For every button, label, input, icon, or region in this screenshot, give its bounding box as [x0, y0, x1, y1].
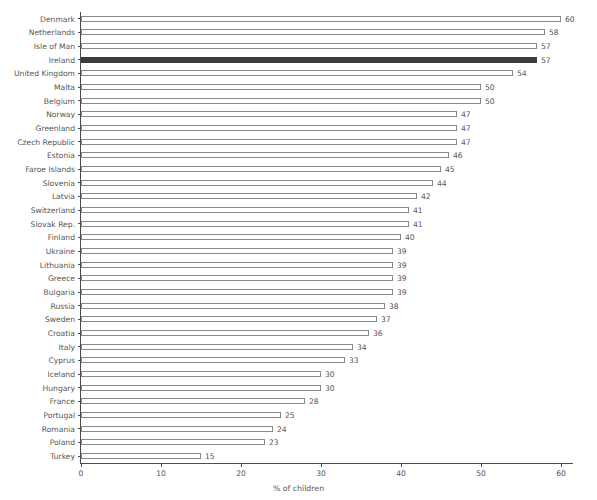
bar	[81, 275, 393, 281]
bar-row: Greenland47	[81, 121, 561, 134]
bar-row: Malta50	[81, 80, 561, 93]
bar-row: Switzerland41	[81, 203, 561, 216]
category-label: Malta	[54, 83, 75, 92]
bar-value-label: 39	[397, 288, 407, 297]
bar-row: Ireland57	[81, 53, 561, 66]
bar	[81, 70, 513, 76]
x-axis-tick-label: 10	[156, 469, 166, 478]
x-axis-tick	[161, 463, 162, 467]
category-label: Norway	[46, 110, 75, 119]
x-axis-tick-label: 60	[556, 469, 566, 478]
bar-value-label: 15	[205, 452, 215, 461]
bar-row: United Kingdom54	[81, 67, 561, 80]
x-axis-tick-label: 40	[396, 469, 406, 478]
category-label: Greece	[48, 274, 75, 283]
x-axis-tick	[241, 463, 242, 467]
category-label: Greenland	[36, 124, 75, 133]
bar-value-label: 39	[397, 260, 407, 269]
bar-value-label: 24	[277, 424, 287, 433]
bar-value-label: 47	[461, 110, 471, 119]
category-label: Isle of Man	[34, 42, 75, 51]
bar-value-label: 45	[445, 165, 455, 174]
bar-row: Portugal25	[81, 408, 561, 421]
x-axis-tick-label: 0	[79, 469, 84, 478]
bar-value-label: 60	[565, 14, 575, 23]
bar-value-label: 30	[325, 383, 335, 392]
bar-row: Romania24	[81, 422, 561, 435]
bar-row: Norway47	[81, 108, 561, 121]
bar-row: Italy34	[81, 340, 561, 353]
x-axis-tick	[561, 463, 562, 467]
bar	[81, 207, 409, 213]
bar-value-label: 44	[437, 178, 447, 187]
bar	[81, 412, 281, 418]
bar-row: Greece39	[81, 272, 561, 285]
bar-row: Ukraine39	[81, 244, 561, 257]
bar	[81, 29, 545, 35]
category-label: Ukraine	[46, 247, 75, 256]
bar-value-label: 30	[325, 370, 335, 379]
bar-row: Croatia36	[81, 326, 561, 339]
bar	[81, 398, 305, 404]
bar-row: Cyprus33	[81, 354, 561, 367]
category-label: France	[50, 397, 75, 406]
bar	[81, 16, 561, 22]
bar-value-label: 39	[397, 274, 407, 283]
bar	[81, 248, 393, 254]
x-axis-tick	[81, 463, 82, 467]
bar	[81, 330, 369, 336]
category-label: Denmark	[40, 14, 75, 23]
bar-value-label: 36	[373, 329, 383, 338]
bar-value-label: 50	[485, 96, 495, 105]
category-label: Estonia	[47, 151, 75, 160]
category-label: Belgium	[44, 96, 75, 105]
bar-row: Faroe Islands45	[81, 162, 561, 175]
category-label: Latvia	[52, 192, 75, 201]
x-axis-tick-label: 20	[236, 469, 246, 478]
bar-row: Isle of Man57	[81, 39, 561, 52]
category-label: Cyprus	[48, 356, 75, 365]
bar-value-label: 28	[309, 397, 319, 406]
bar-value-label: 46	[453, 151, 463, 160]
category-label: Slovenia	[43, 178, 75, 187]
category-label: Portugal	[44, 411, 75, 420]
x-axis-title: % of children	[0, 484, 597, 494]
bar	[81, 234, 401, 240]
bar-value-label: 37	[381, 315, 391, 324]
bar-row: Slovenia44	[81, 176, 561, 189]
bar-value-label: 23	[269, 438, 279, 447]
category-label: Bulgaria	[44, 288, 76, 297]
bar	[81, 152, 449, 158]
bar-value-label: 34	[357, 342, 367, 351]
bar-row: Belgium50	[81, 94, 561, 107]
bar	[81, 303, 385, 309]
category-label: Sweden	[45, 315, 75, 324]
bar-value-label: 47	[461, 124, 471, 133]
bar-value-label: 25	[285, 411, 295, 420]
bar-value-label: 41	[413, 206, 423, 215]
bar-row: Russia38	[81, 299, 561, 312]
category-label: Netherlands	[29, 28, 75, 37]
bar	[81, 57, 537, 63]
bar	[81, 426, 273, 432]
bar-row: Poland23	[81, 436, 561, 449]
bar-value-label: 42	[421, 192, 431, 201]
bar	[81, 385, 321, 391]
category-label: Czech Republic	[17, 137, 75, 146]
bar-value-label: 40	[405, 233, 415, 242]
bar	[81, 166, 441, 172]
bar	[81, 344, 353, 350]
bar-row: Iceland30	[81, 367, 561, 380]
bar-value-label: 50	[485, 83, 495, 92]
category-label: Hungary	[43, 383, 75, 392]
category-label: Croatia	[48, 329, 75, 338]
bar-row: Estonia46	[81, 149, 561, 162]
bar-value-label: 47	[461, 137, 471, 146]
x-axis-tick	[481, 463, 482, 467]
category-label: United Kingdom	[14, 69, 75, 78]
bar-row: Denmark60	[81, 12, 561, 25]
bar-value-label: 58	[549, 28, 559, 37]
category-label: Russia	[51, 301, 75, 310]
bar-row: Netherlands58	[81, 26, 561, 39]
category-label: Finland	[48, 233, 75, 242]
